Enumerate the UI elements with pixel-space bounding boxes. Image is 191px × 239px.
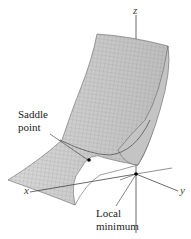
local-minimum-label: Local minimum bbox=[96, 207, 139, 233]
local-minimum-marker bbox=[134, 172, 138, 176]
saddle-point-marker bbox=[87, 158, 91, 162]
saddle-point-label: Saddle point bbox=[18, 108, 48, 134]
y-axis-label: y bbox=[180, 184, 185, 196]
z-axis-label: z bbox=[133, 4, 137, 16]
min-leader bbox=[116, 176, 135, 206]
y-axis bbox=[136, 174, 178, 191]
x-axis-label: x bbox=[24, 184, 29, 196]
